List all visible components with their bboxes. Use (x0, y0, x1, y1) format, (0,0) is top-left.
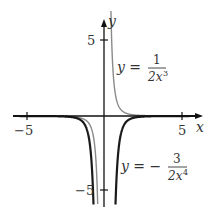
x-axis-label: x (196, 119, 204, 135)
equation-exponent: 3 (163, 69, 168, 78)
equation-lhs: y = (116, 59, 141, 75)
equation-denominator: 2x (167, 169, 183, 183)
equation-label-cubic: y = 1 2x 3 (116, 53, 168, 84)
y-tick-label-5: 5 (87, 33, 95, 48)
y-axis-arrow-icon (101, 19, 107, 27)
equation-exponent: 4 (183, 168, 188, 177)
x-tick-label-5: 5 (178, 123, 186, 138)
y-axis-label: y (107, 13, 117, 29)
y-tick-label-neg5: −5 (75, 183, 94, 198)
equation-label-quartic: y = − 3 2x 4 (120, 152, 188, 183)
equation-lhs: y = − (120, 158, 161, 174)
x-tick-label-neg5: −5 (14, 123, 33, 138)
equation-denominator: 2x (147, 70, 163, 84)
chart-plot: −5 5 5 −5 x y y = 1 2x 3 y = − 3 2x 4 (0, 0, 215, 214)
equation-numerator: 3 (173, 152, 181, 166)
equation-numerator: 1 (153, 53, 161, 67)
